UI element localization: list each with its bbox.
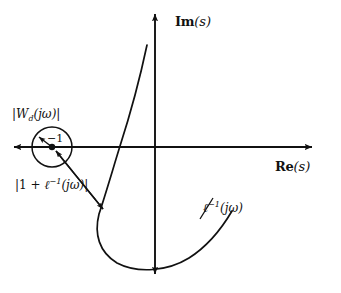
distance-label-arg: (јω)| bbox=[61, 178, 88, 192]
real-axis-label-prefix: Re bbox=[275, 159, 293, 174]
minus-one-label: −1 bbox=[47, 133, 63, 144]
nyquist-curve-label-exponent: −1 bbox=[208, 199, 220, 209]
nyquist-diagram: Im(s) Re(s) |Wd(јω)| −1 |1 + ℓ−1(јω)| ℓ−… bbox=[0, 0, 341, 293]
uncertainty-disc-label-prefix: |W bbox=[12, 107, 28, 121]
diagram-canvas bbox=[0, 0, 341, 293]
distance-label-exponent: −1 bbox=[49, 176, 61, 186]
real-axis-label: Re(s) bbox=[275, 160, 310, 173]
uncertainty-disc-label: |Wd(јω)| bbox=[12, 108, 60, 123]
imaginary-axis-label: Im(s) bbox=[175, 15, 211, 28]
imaginary-axis-label-arg: (s) bbox=[194, 14, 211, 29]
nyquist-curve bbox=[97, 45, 232, 270]
nyquist-curve-label-arg: (јω) bbox=[220, 201, 243, 215]
nyquist-curve-label: ℓ−1(јω) bbox=[203, 200, 243, 214]
distance-label: |1 + ℓ−1(јω)| bbox=[15, 177, 88, 191]
uncertainty-disc-label-arg: (јω)| bbox=[33, 107, 60, 121]
imaginary-axis-label-prefix: Im bbox=[175, 14, 194, 29]
real-axis-label-arg: (s) bbox=[293, 159, 310, 174]
distance-label-lead: |1 + bbox=[15, 178, 44, 192]
